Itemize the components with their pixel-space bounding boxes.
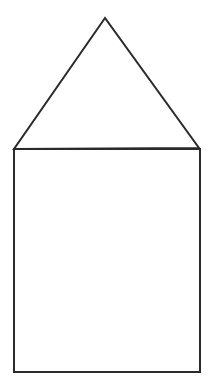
house-body-rectangle	[14, 149, 200, 372]
house-diagram	[0, 0, 210, 386]
roof-triangle	[14, 18, 199, 149]
